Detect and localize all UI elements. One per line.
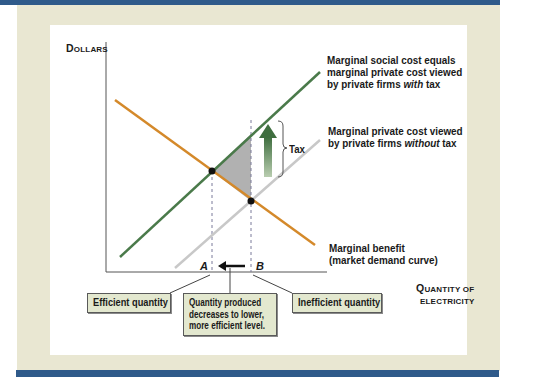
point-a-dot	[209, 168, 216, 175]
callout-quantity-decrease: Quantity produceddecreases to lower,more…	[183, 293, 277, 336]
x-axis-label-line1: QUANTITY OF	[416, 282, 474, 294]
point-a-label: A	[200, 260, 208, 272]
mb-label: Marginal benefit (market demand curve)	[329, 242, 438, 266]
left-arrow-icon	[218, 261, 245, 271]
callout-efficient-quantity: Efficient quantity	[87, 293, 171, 313]
msc-label: Marginal social cost equals marginal pri…	[327, 54, 462, 90]
connector-inefficient	[253, 275, 292, 293]
connector-efficient	[170, 275, 210, 293]
point-b-dot	[248, 198, 255, 205]
y-axis-label: DOLLARS	[66, 42, 108, 54]
tax-brace-icon	[278, 121, 287, 177]
mpc-label: Marginal private cost viewed by private …	[328, 125, 463, 149]
x-axis-label-line2: ELECTRICITY	[420, 297, 475, 306]
callout-inefficient-quantity: Inefficient quantity	[292, 293, 382, 313]
point-b-label: B	[256, 260, 264, 272]
tax-arrow-icon	[259, 124, 277, 177]
tax-label: Tax	[289, 143, 305, 155]
